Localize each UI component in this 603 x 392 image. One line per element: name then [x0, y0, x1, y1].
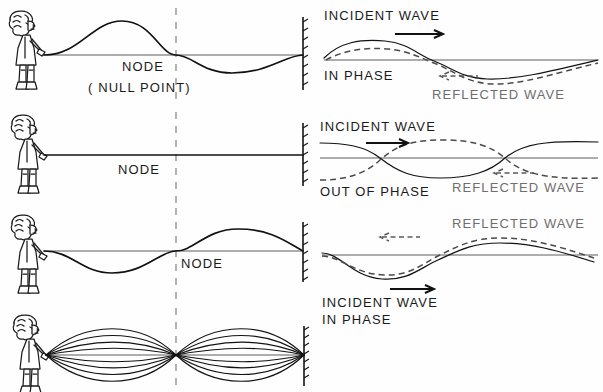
row-1-person — [9, 11, 45, 89]
reflected-wave-curve — [320, 140, 598, 180]
row-3-group: NODE REFLECTED WAVE INCIDENT WAVE IN PHA… — [11, 208, 598, 327]
row-1-incident-arrow — [395, 30, 443, 38]
row-1-label-incident-wave: INCIDENT WAVE — [324, 8, 440, 23]
row-3-label-in-phase: IN PHASE — [322, 312, 391, 327]
row-2-reflected-arrow — [494, 169, 534, 177]
row-3-wall — [303, 222, 308, 282]
wave-diagram-figure: NODE ( NULL POINT) INCIDENT WAVE IN PHAS… — [0, 0, 603, 392]
row-1-label-in-phase: IN PHASE — [324, 68, 393, 83]
row-2-wall — [303, 123, 308, 186]
row-3-right-plot — [322, 238, 598, 279]
row-3-left-plot — [44, 229, 303, 273]
row-4-wall — [304, 326, 309, 386]
row-4-person — [13, 315, 49, 392]
row-3-person — [11, 215, 47, 293]
rope-standing-wave — [44, 21, 303, 73]
row-3-reflected-arrow — [380, 233, 420, 241]
row-3-label-incident-wave: INCIDENT WAVE — [322, 295, 438, 310]
row-2-label-node: NODE — [118, 162, 160, 177]
row-1-label-node: NODE — [122, 59, 164, 74]
row-3-label-reflected-wave: REFLECTED WAVE — [452, 216, 585, 231]
row-4-envelope-plot — [46, 329, 304, 382]
row-2-incident-arrow — [366, 139, 408, 147]
row-1-left-plot — [44, 21, 303, 73]
reflected-wave-curve — [322, 238, 594, 275]
row-2-label-reflected-wave: REFLECTED WAVE — [452, 180, 585, 195]
row-1-label-reflected-wave: REFLECTED WAVE — [432, 87, 565, 102]
row-2-label-out-of-phase: OUT OF PHASE — [320, 184, 430, 199]
row-2-label-incident-wave: INCIDENT WAVE — [320, 119, 436, 134]
row-1-wall — [303, 17, 308, 90]
incident-wave-curve — [322, 243, 594, 279]
row-4-group — [13, 308, 309, 392]
row-1-label-null-point: ( NULL POINT) — [88, 80, 191, 95]
row-2-person — [11, 115, 47, 193]
row-3-incident-arrow — [390, 285, 434, 293]
row-3-label-node: NODE — [181, 256, 223, 271]
diagram-canvas: NODE ( NULL POINT) INCIDENT WAVE IN PHAS… — [0, 0, 603, 392]
row-1-group: NODE ( NULL POINT) INCIDENT WAVE IN PHAS… — [9, 8, 598, 104]
row-2-group: NODE INCIDENT WAVE OUT OF PHASE REFLECTE… — [11, 112, 598, 205]
row-2-right-plot — [320, 140, 598, 180]
